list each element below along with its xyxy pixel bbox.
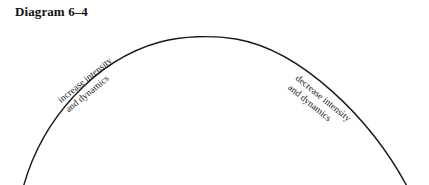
diagram-canvas: Diagram 6–4 increase intensity and dynam… [0, 0, 429, 185]
arch-curve-path [22, 37, 410, 185]
